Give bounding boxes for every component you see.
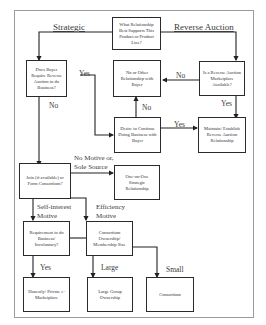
box-root-question: What Relationship Best Supports This Pro… <box>112 17 161 50</box>
label-yes-ra: Yes <box>221 100 232 108</box>
label-self-interest: Self-interest Motive <box>37 203 77 220</box>
box-text: Consortium Ownership/ Membership Size <box>89 230 130 248</box>
box-buyer-require-ra: Does Buyer Require Reverse Auction to do… <box>26 60 67 97</box>
box-join-consortium: Join (if available) or Form Consortium? <box>19 163 71 199</box>
label-efficiency: Efficiency Motive <box>96 203 136 220</box>
box-consortium-size: Consortium Ownership/ Membership Size <box>86 221 133 256</box>
box-one-on-one: One-on-One Strategic Relationship <box>114 165 160 200</box>
label-yes-buyer: Yes <box>79 70 90 78</box>
label-no-ra: No <box>176 72 185 80</box>
box-text: Large Group Ownership <box>90 289 130 301</box>
label-no-buyer: No <box>49 102 58 110</box>
label-no-desire: No <box>142 104 151 112</box>
box-text: Is a Reverse Auction Marketplace Availab… <box>202 70 242 88</box>
box-text: What Relationship Best Supports This Pro… <box>115 22 158 46</box>
box-text: Maintain/ Establish Reverse Auction Rela… <box>201 126 243 144</box>
label-small: Small <box>166 266 184 274</box>
label-reverse-auction: Reverse Auction <box>174 23 234 31</box>
box-text: Join (if available) or Form Consortium? <box>22 175 68 187</box>
box-text: Honestly/ Private e-Marketplace <box>26 289 67 301</box>
box-text: Does Buyer Require Reverse Auction to do… <box>29 67 64 91</box>
box-no-other-relationship: No or Other Relationship with Buyer <box>113 60 161 97</box>
label-yes-requirement: Yes <box>40 264 51 272</box>
box-text: Consortium <box>159 292 181 298</box>
box-private-marketplace: Honestly/ Private e-Marketplace <box>23 277 70 312</box>
box-consortium: Consortium <box>146 277 194 312</box>
box-text: No or Other Relationship with Buyer <box>116 70 158 88</box>
box-ra-available: Is a Reverse Auction Marketplace Availab… <box>199 61 245 96</box>
box-text: One-on-One Strategic Relationship <box>117 174 157 192</box>
label-yes-desire: Yes <box>174 121 185 129</box>
box-requirement-involuntary: Requirement to do Business/ Involuntary? <box>23 221 70 256</box>
box-text: Requirement to do Business/ Involuntary? <box>26 230 67 248</box>
box-desire-continue: Desire to Continue Doing Business with B… <box>114 117 161 153</box>
box-text: Desire to Continue Doing Business with B… <box>117 126 158 144</box>
label-large: Large <box>101 264 118 272</box>
label-strategic: Strategic <box>53 23 85 31</box>
box-maintain-ra: Maintain/ Establish Reverse Auction Rela… <box>198 117 246 153</box>
box-large-group: Large Group Ownership <box>87 277 133 312</box>
